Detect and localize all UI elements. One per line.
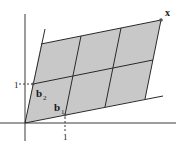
b2-point — [31, 82, 34, 85]
b2-subscript: 2 — [43, 94, 47, 102]
lattice-diagram: x b 2 b 1 1 1 — [0, 0, 186, 144]
y-tick-label: 1 — [14, 80, 19, 90]
b2-label: b — [36, 87, 42, 99]
b1-label: b — [54, 101, 60, 113]
b1-subscript: 1 — [61, 108, 65, 116]
x-tick-label: 1 — [63, 132, 68, 142]
x-point — [159, 18, 163, 22]
x-label: x — [165, 7, 170, 18]
